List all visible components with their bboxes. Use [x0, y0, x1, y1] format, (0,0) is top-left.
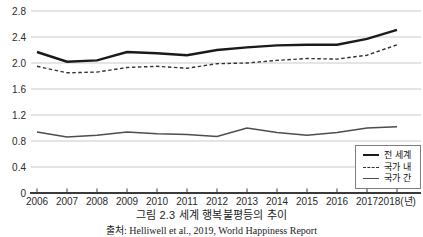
- legend-line-sample-within: [363, 167, 379, 168]
- legend-item-between: 국가 간: [363, 174, 418, 183]
- chart-source: 출처: Helliwell et al., 2019, World Happin…: [0, 222, 423, 237]
- y-axis-tick-label: 2.4: [12, 32, 26, 43]
- y-axis-tick-label: 0.4: [12, 162, 26, 173]
- y-axis-tick-label: 0.8: [12, 136, 26, 147]
- y-axis-tick-label: 1.2: [12, 110, 26, 121]
- legend-label-between: 국가 간: [384, 174, 411, 183]
- legend-line-sample-between: [363, 178, 379, 179]
- chart-legend: 전 세계 국가 내 국가 간: [355, 145, 421, 189]
- y-axis-tick-label: 2.8: [12, 6, 26, 17]
- legend-item-total: 전 세계: [363, 151, 418, 160]
- y-axis-tick-label: 2.0: [12, 58, 26, 69]
- series-line-between: [37, 127, 397, 137]
- legend-label-total: 전 세계: [384, 151, 411, 160]
- legend-item-within: 국가 내: [363, 163, 418, 172]
- legend-label-within: 국가 내: [384, 163, 411, 172]
- series-line-total: [37, 30, 397, 62]
- y-axis-tick-label: 1.6: [12, 84, 26, 95]
- chart-title: 그림 2.3 세계 행복불평등의 추이: [0, 206, 423, 222]
- happiness-inequality-figure: 00.40.81.21.62.02.42.8200620072008200920…: [0, 0, 423, 237]
- legend-line-sample-total: [363, 154, 379, 156]
